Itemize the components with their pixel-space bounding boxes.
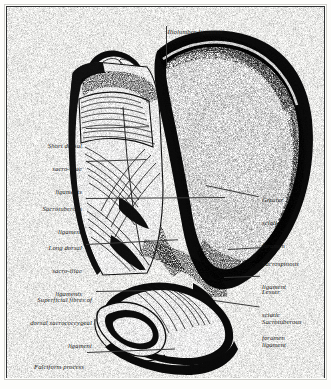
label-line: Sacrotuberous xyxy=(262,318,324,326)
label-line: sacro-iliac xyxy=(14,267,82,275)
label-line: Greater xyxy=(262,196,324,204)
label-line: Falciform process xyxy=(14,363,84,371)
label-line: dorsal sacrococcygeal xyxy=(8,319,92,327)
label-line: sciatic xyxy=(262,219,324,227)
label-line: Sacrotuberous xyxy=(14,205,82,213)
label-line: Lesser xyxy=(262,288,324,296)
label-line: sacro-iliac xyxy=(14,165,82,173)
label-line: Short dorsal xyxy=(14,142,82,150)
anatomical-plate: Iliolumbar ligament Short dorsal sacro-i… xyxy=(0,0,331,389)
label-line: Long dorsal xyxy=(14,244,82,252)
label-line: Sacrospinous xyxy=(262,260,324,268)
label-line: Iliolumbar ligament xyxy=(156,28,234,36)
label-falciform-process: Falciform process xyxy=(14,348,84,386)
label-line: ligament xyxy=(262,341,324,349)
label-sacrotuberous-ligament-right: Sacrotuberous ligament xyxy=(262,303,324,364)
label-line: Superficial fibres of xyxy=(8,296,92,304)
label-iliolumbar-ligament: Iliolumbar ligament xyxy=(156,13,234,51)
